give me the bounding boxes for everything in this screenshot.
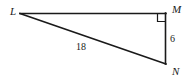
- triangle-svg: [0, 0, 191, 81]
- side-length-label-LN: 18: [76, 42, 86, 52]
- vertex-label-L: L: [10, 6, 16, 17]
- right-angle-marker-icon: [158, 14, 166, 22]
- side-length-label-MN: 6: [170, 34, 175, 44]
- geometry-figure: L M N 18 6: [0, 0, 191, 81]
- vertex-label-N: N: [172, 66, 179, 77]
- vertex-label-M: M: [172, 4, 181, 15]
- side-LN-hypotenuse-line: [20, 14, 166, 65]
